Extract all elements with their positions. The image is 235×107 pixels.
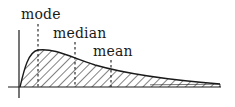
mode-label: mode (21, 7, 61, 21)
skewed-distribution-diagram: mode median mean (0, 0, 235, 107)
median-label: median (53, 26, 107, 40)
mean-label: mean (93, 44, 133, 58)
